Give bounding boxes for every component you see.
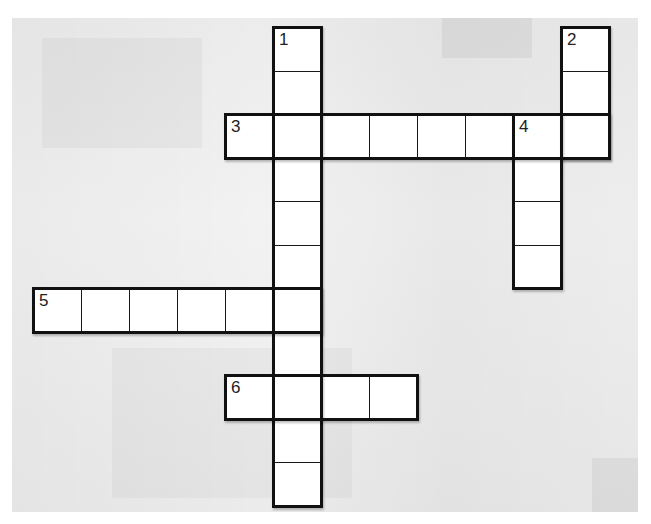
crossword-cell[interactable]: 6	[225, 375, 274, 420]
crossword-cell[interactable]	[513, 158, 562, 203]
crossword-cell[interactable]: 3	[225, 114, 274, 159]
crossword-cell[interactable]	[465, 114, 514, 159]
crossword-cell[interactable]	[561, 114, 610, 159]
crossword-cell[interactable]	[273, 201, 322, 246]
crossword-cell[interactable]	[513, 245, 562, 290]
crossword-cell[interactable]	[273, 114, 322, 159]
crossword-cell[interactable]	[513, 201, 562, 246]
clue-number: 6	[231, 379, 240, 396]
crossword-cell[interactable]	[225, 288, 274, 333]
crossword-cell[interactable]	[129, 288, 178, 333]
clue-number: 2	[567, 31, 576, 48]
crossword-cell[interactable]	[273, 462, 322, 507]
crossword-cell[interactable]: 1	[273, 27, 322, 72]
clue-number: 1	[279, 31, 288, 48]
crossword-cell[interactable]	[273, 158, 322, 203]
crossword-cell[interactable]	[273, 288, 322, 333]
crossword-cell[interactable]	[561, 71, 610, 116]
clue-number: 3	[231, 118, 240, 135]
crossword-cell[interactable]	[273, 332, 322, 377]
crossword-cell[interactable]	[321, 114, 370, 159]
crossword-cell[interactable]	[273, 71, 322, 116]
crossword-cell[interactable]: 5	[33, 288, 82, 333]
clue-number: 4	[519, 118, 528, 135]
crossword-cell[interactable]	[273, 375, 322, 420]
crossword-cell[interactable]	[177, 288, 226, 333]
crossword-cell[interactable]	[369, 375, 418, 420]
crossword-cell[interactable]	[273, 245, 322, 290]
crossword-grid: 123456	[0, 0, 651, 524]
crossword-cell[interactable]: 4	[513, 114, 562, 159]
crossword-cell[interactable]	[417, 114, 466, 159]
clue-number: 5	[39, 292, 48, 309]
crossword-cell[interactable]: 2	[561, 27, 610, 72]
crossword-cell[interactable]	[369, 114, 418, 159]
crossword-cell[interactable]	[81, 288, 130, 333]
crossword-cell[interactable]	[273, 419, 322, 464]
crossword-cell[interactable]	[321, 375, 370, 420]
